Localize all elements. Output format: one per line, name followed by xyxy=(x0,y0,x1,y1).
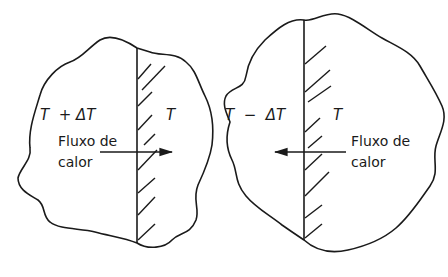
right-flow-label-line2: calor xyxy=(351,154,386,170)
left-body: T + ΔT T Fluxo de calor xyxy=(18,38,213,248)
left-hot-temp-label: T + ΔT xyxy=(40,106,97,124)
right-body: T − ΔT T Fluxo de calor xyxy=(224,14,444,252)
left-flow-label-line1: Fluxo de xyxy=(58,133,117,149)
left-flow-label-line2: calor xyxy=(58,154,93,170)
right-cold-temp-label: T − ΔT xyxy=(225,106,287,124)
heat-flow-diagram: T + ΔT T Fluxo de calor T − ΔT T Fluxo d… xyxy=(0,0,448,277)
right-flow-label-line1: Fluxo de xyxy=(351,133,410,149)
left-wall-temp-label: T xyxy=(166,106,177,124)
right-wall-temp-label: T xyxy=(333,106,344,124)
right-wall-hatching xyxy=(305,46,331,238)
right-blob-outline xyxy=(224,14,444,252)
